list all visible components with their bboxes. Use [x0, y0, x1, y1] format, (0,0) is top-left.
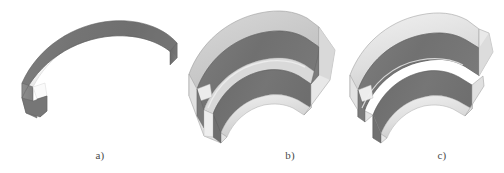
figure-panel-b: [178, 0, 346, 145]
shape-a-solid-curved-block: [0, 0, 190, 145]
figure-panel-c: [332, 0, 504, 145]
figure-panel-a: [0, 0, 190, 145]
caption-b: b): [260, 143, 320, 167]
shape-b-curved-u-channel: [178, 0, 346, 145]
caption-a: a): [70, 143, 130, 167]
figure-container: a) b) c): [0, 0, 504, 173]
shape-b-left-foot: [204, 110, 213, 137]
shape-c-curved-split-flanges: [332, 0, 504, 145]
caption-c: c): [412, 143, 472, 167]
